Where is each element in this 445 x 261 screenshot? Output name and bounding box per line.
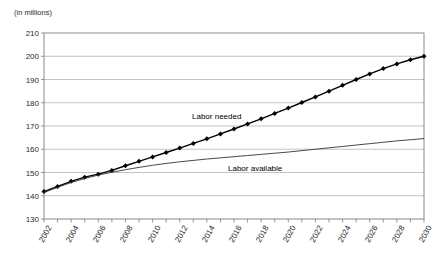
series-marker: [204, 136, 209, 141]
series-marker: [218, 131, 223, 136]
y-axis-tick-label: 160: [13, 145, 39, 154]
series-marker: [327, 89, 332, 94]
series-marker: [408, 57, 413, 62]
series-marker: [191, 141, 196, 146]
series-marker: [164, 150, 169, 155]
series-marker: [177, 146, 182, 151]
series-marker: [245, 121, 250, 126]
series-marker: [354, 77, 359, 82]
series-marker: [299, 100, 304, 105]
y-axis-tick-label: 190: [13, 75, 39, 84]
series-marker: [272, 111, 277, 116]
series-marker: [137, 159, 142, 164]
series-marker: [123, 163, 128, 168]
y-axis-tick-label: 180: [13, 98, 39, 107]
y-axis-tick-label: 210: [13, 29, 39, 38]
series-marker: [381, 66, 386, 71]
series-annotation-label: Labor available: [228, 164, 282, 173]
series-marker: [150, 154, 155, 159]
series-marker: [340, 83, 345, 88]
series-marker: [259, 116, 264, 121]
series-marker: [394, 61, 399, 66]
series-marker: [422, 54, 427, 59]
labor-supply-demand-chart: (in millions) 13014015016017018019020021…: [0, 0, 445, 261]
y-axis-tick-label: 170: [13, 122, 39, 131]
chart-plot-area: [0, 0, 445, 261]
series-marker: [367, 71, 372, 76]
series-annotation-label: Labor needed: [192, 112, 241, 121]
series-marker: [232, 127, 237, 132]
y-axis-tick-label: 130: [13, 215, 39, 224]
series-marker: [286, 106, 291, 111]
y-axis-tick-label: 150: [13, 168, 39, 177]
y-axis-tick-label: 140: [13, 191, 39, 200]
series-marker: [313, 94, 318, 99]
y-axis-tick-label: 200: [13, 52, 39, 61]
